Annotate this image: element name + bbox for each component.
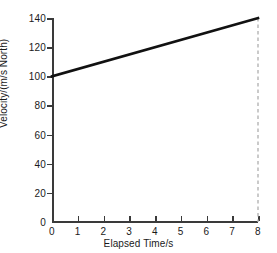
- x-tick-label-1: 1: [75, 226, 81, 237]
- velocity-time-chart: 140 120 100 80 60 40 20 0 0 1 2: [0, 0, 277, 253]
- x-tick-label-3: 3: [126, 226, 132, 237]
- plot-area: [52, 18, 258, 222]
- y-tick-80: [47, 105, 52, 107]
- y-tick-100: [47, 76, 52, 78]
- x-tick-6: [207, 216, 209, 221]
- x-tick-label-6: 6: [204, 226, 210, 237]
- y-tick-40: [47, 164, 52, 166]
- x-tick-7: [232, 216, 234, 221]
- x-tick-2: [104, 216, 106, 221]
- y-tick-label-80: 80: [34, 100, 46, 111]
- x-axis-title: Elapsed Time/s: [0, 238, 277, 249]
- y-tick-label-0: 0: [40, 217, 46, 228]
- x-tick-label-8: 8: [255, 226, 261, 237]
- y-tick-label-60: 60: [34, 129, 46, 140]
- y-tick-label-40: 40: [34, 158, 46, 169]
- x-tick-label-7: 7: [229, 226, 235, 237]
- y-tick-20: [47, 193, 52, 195]
- x-tick-label-2: 2: [101, 226, 107, 237]
- y-tick-120: [47, 47, 52, 49]
- x-tick-label-4: 4: [152, 226, 158, 237]
- x-tick-8: [258, 216, 260, 221]
- y-tick-label-120: 120: [29, 42, 46, 53]
- y-tick-label-20: 20: [34, 187, 46, 198]
- x-axis-spine: [52, 221, 258, 223]
- x-tick-label-0: 0: [49, 226, 55, 237]
- x-tick-5: [181, 216, 183, 221]
- x-tick-4: [155, 216, 157, 221]
- y-axis-title: Velocity/(m/s North): [0, 39, 9, 128]
- y-tick-60: [47, 135, 52, 137]
- y-axis-spine: [52, 18, 54, 222]
- x-tick-3: [129, 216, 131, 221]
- y-tick-label-100: 100: [29, 71, 46, 82]
- x-tick-1: [78, 216, 80, 221]
- x-tick-label-5: 5: [178, 226, 184, 237]
- y-tick-label-140: 140: [29, 13, 46, 24]
- y-tick-140: [47, 18, 52, 20]
